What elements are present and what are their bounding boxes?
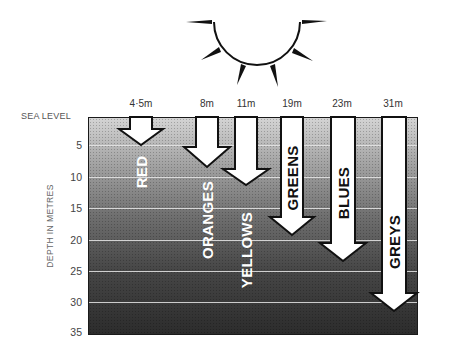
arrow-red [118, 117, 164, 147]
depth-label-greys: 31m [383, 98, 402, 109]
y-tick-15: 15 [70, 202, 82, 214]
band-label-yellows: YELLOWS [238, 212, 255, 288]
band-label-greens: GREENS [284, 145, 301, 210]
gridline-30 [89, 302, 417, 303]
depth-label-red: 4·5m [130, 98, 153, 109]
band-label-blues: BLUES [335, 167, 352, 219]
y-tick-20: 20 [70, 234, 82, 246]
sun-icon [0, 0, 454, 100]
gridline-15 [89, 208, 417, 209]
y-axis-title: DEPTH IN METRES [45, 184, 55, 267]
y-tick-5: 5 [76, 139, 82, 151]
y-tick-25: 25 [70, 265, 82, 277]
depth-label-greens: 19m [282, 98, 301, 109]
y-tick-10: 10 [70, 171, 82, 183]
band-label-red: RED [133, 156, 150, 189]
depth-label-yellows: 11m [237, 98, 256, 109]
depth-color-chart: 4·5m 8m 11m 19m 23m 31m SEA LEVEL DEPTH … [0, 0, 454, 353]
sea-level-label: SEA LEVEL [21, 111, 71, 121]
depth-label-oranges: 8m [200, 98, 214, 109]
y-tick-35: 35 [70, 326, 82, 338]
arrow-yellows [222, 117, 270, 187]
band-label-greys: GREYS [386, 215, 403, 269]
y-tick-30: 30 [70, 296, 82, 308]
depth-label-blues: 23m [332, 98, 351, 109]
band-label-oranges: ORANGES [199, 181, 216, 259]
